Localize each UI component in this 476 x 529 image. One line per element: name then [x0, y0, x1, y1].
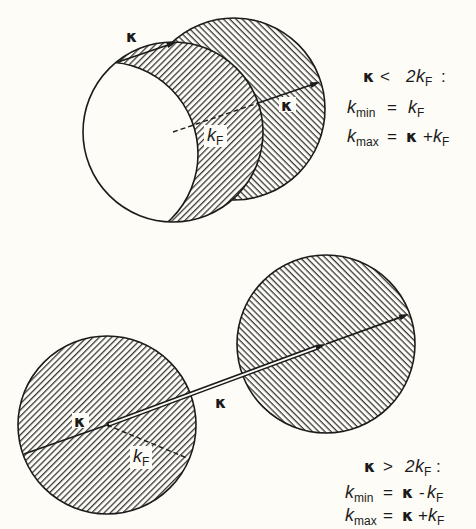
unshaded-region — [14, 62, 198, 246]
top-kmin: kmin = kF — [347, 97, 424, 121]
kmax-rhs-kappa: κ — [406, 127, 417, 146]
cond-op: < — [380, 67, 390, 86]
kf-sub: F — [216, 134, 223, 148]
cond-kappa: κ — [363, 67, 374, 86]
label-kappa-between: κ — [215, 393, 226, 412]
top-panel: κ κ kF κ < 2 kF : kmin = kF kmax = κ + k… — [14, 18, 449, 246]
bottom-kmax: kmax = κ + kF — [345, 505, 444, 529]
kmin-rhs-kappa: κ — [402, 483, 413, 502]
cond-colon: : — [441, 67, 446, 86]
kmin-rhs-sub: F — [417, 106, 424, 120]
kmin-eq: = — [387, 98, 397, 117]
cond-kappa: κ — [364, 457, 375, 476]
kmax-rhs-op: + — [418, 506, 428, 525]
cond-coef: 2 — [404, 457, 415, 476]
kmax-rhs-kappa: κ — [402, 506, 413, 525]
kmin-eq: = — [383, 483, 393, 502]
kmax-eq: = — [383, 506, 393, 525]
kmin-rhs-sub: F — [436, 491, 443, 505]
top-kmax: kmax = κ + kF — [347, 126, 449, 150]
kmax-sub: max — [354, 514, 377, 528]
kf-sub: F — [142, 455, 149, 469]
cond-sub: F — [424, 465, 431, 479]
kmin-sub: min — [354, 491, 373, 505]
kmin-sub: min — [356, 106, 375, 120]
label-kappa-inner: κ — [74, 412, 85, 431]
bottom-kmin: kmin = κ - kF — [345, 482, 443, 506]
kmax-rhs-sub: F — [437, 514, 444, 528]
cond-colon: : — [436, 457, 441, 476]
kmax-rhs-sub: F — [442, 135, 449, 149]
label-kappa-shift: κ — [126, 27, 137, 46]
cond-op: > — [383, 457, 393, 476]
cond-sub: F — [425, 75, 432, 89]
cond-coef: 2 — [405, 67, 416, 86]
bottom-panel: κ κ kF κ > 2 kF : kmin = κ - kF kmax = κ… — [18, 255, 444, 529]
top-condition: κ < 2 kF : — [363, 66, 446, 90]
bottom-condition: κ > 2 kF : — [364, 456, 441, 480]
kmax-rhs-op: + — [423, 127, 433, 146]
kmax-eq: = — [387, 127, 397, 146]
kmax-sub: max — [356, 135, 379, 149]
kmin-rhs-op: - — [419, 483, 425, 502]
label-kappa-arrow: κ — [281, 96, 292, 115]
diagram-canvas: κ κ kF κ < 2 kF : kmin = kF kmax = κ + k… — [0, 0, 476, 529]
